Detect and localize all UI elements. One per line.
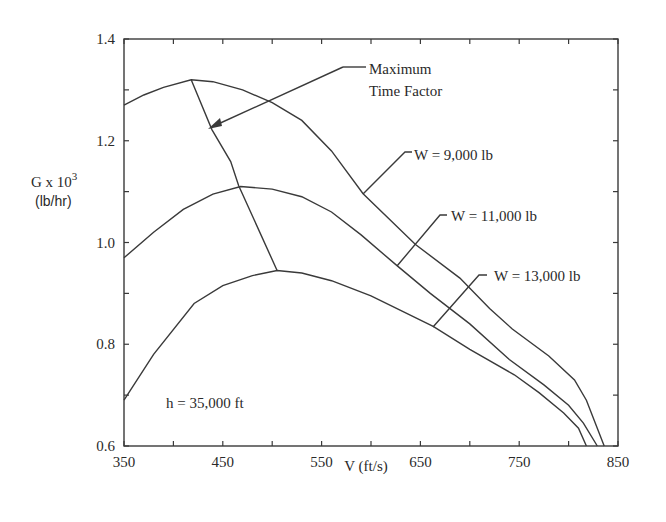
series-maximum-time-factor — [191, 80, 277, 271]
x-tick-label: 850 — [607, 454, 630, 470]
w11000-leader — [397, 215, 447, 266]
x-axis-label: V (ft/s) — [344, 458, 387, 475]
y-tick-label: 0.8 — [96, 336, 115, 352]
y-axis-unit: (lb/hr) — [35, 193, 72, 209]
x-tick-label: 550 — [310, 454, 333, 470]
max-time-factor-label-line1: Maximum — [369, 61, 432, 77]
w13000-label: W = 13,000 lb — [494, 268, 581, 284]
x-tick-label: 350 — [113, 454, 136, 470]
altitude-label: h = 35,000 ft — [166, 395, 244, 411]
max-time-factor-label-line2: Time Factor — [369, 83, 442, 99]
chart: 0.60.81.01.21.4 350450550650750850 G x 1… — [0, 0, 666, 522]
y-axis-label: G x 103 — [31, 170, 78, 190]
x-tick-label: 750 — [508, 454, 531, 470]
x-tick-label: 450 — [212, 454, 235, 470]
series-w-9-000-lb — [124, 80, 604, 446]
y-tick-label: 1.0 — [96, 235, 115, 251]
y-tick-labels: 0.60.81.01.21.4 — [96, 31, 115, 454]
w9000-leader — [363, 152, 412, 194]
x-tick-label: 650 — [409, 454, 432, 470]
y-tick-label: 1.2 — [96, 133, 115, 149]
series-w-13-000-lb — [124, 271, 586, 447]
curves — [124, 80, 604, 446]
y-tick-label: 1.4 — [96, 31, 115, 47]
w9000-label: W = 9,000 lb — [414, 147, 493, 163]
y-tick-label: 0.6 — [96, 438, 115, 454]
w11000-label: W = 11,000 lb — [451, 208, 537, 224]
max-time-factor-arrow — [216, 67, 343, 125]
